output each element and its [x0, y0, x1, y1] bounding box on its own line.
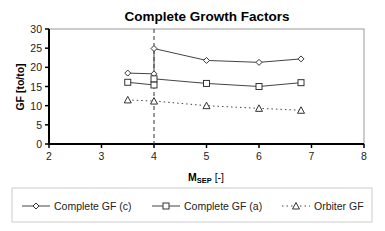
x-tick-label: 6 [256, 150, 262, 162]
square-marker [151, 76, 157, 82]
legend-label: Complete GF (a) [184, 200, 262, 212]
square-marker [298, 80, 304, 86]
x-tick-label: 7 [309, 150, 315, 162]
chart: Complete Growth Factors 0510152025302345… [0, 0, 385, 231]
y-tick-label: 20 [30, 61, 42, 73]
square-marker [163, 203, 169, 209]
x-tick-label: 3 [99, 150, 105, 162]
square-marker [151, 82, 157, 88]
plot-area: 0510152025302345678 [30, 23, 367, 162]
x-tick-label: 8 [361, 150, 367, 162]
x-tick-label: 2 [46, 150, 52, 162]
square-marker [204, 80, 210, 86]
square-marker [125, 79, 131, 85]
x-tick-label: 5 [204, 150, 210, 162]
y-tick-label: 10 [30, 100, 42, 112]
chart-title: Complete Growth Factors [124, 9, 289, 24]
square-marker [256, 84, 262, 90]
legend-label: Complete GF (c) [54, 200, 132, 212]
y-tick-label: 30 [30, 23, 42, 35]
y-tick-label: 15 [30, 81, 42, 93]
x-tick-label: 4 [151, 150, 157, 162]
y-tick-label: 5 [36, 119, 42, 131]
y-axis-label: GF [to/to] [14, 63, 26, 110]
y-tick-label: 25 [30, 42, 42, 54]
y-tick-label: 0 [36, 138, 42, 150]
x-axis-label: MSEP [-] [188, 171, 224, 185]
legend-label: Orbiter GF [314, 200, 364, 212]
